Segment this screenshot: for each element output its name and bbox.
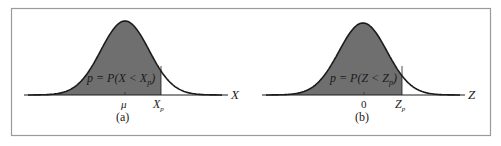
figure-frame <box>12 9 491 136</box>
cutoff-label-a: Xp <box>152 97 164 113</box>
axis-label-a: X <box>230 87 240 102</box>
area-label-b: p = P(Z < Zp) <box>329 71 397 87</box>
panel-a: p = P(X < Xp) X μ Xp (a) <box>24 21 240 124</box>
area-label-a: p = P(X < Xp) <box>86 71 155 87</box>
normal-distribution-figure: p = P(X < Xp) X μ Xp (a) p = P(Z < Zp) Z… <box>0 0 501 146</box>
cutoff-label-b: Zp <box>395 97 406 113</box>
axis-label-b: Z <box>468 87 476 102</box>
zero-label-b: 0 <box>361 98 367 110</box>
caption-b: (b) <box>355 110 369 124</box>
mean-label-a: μ <box>120 98 127 110</box>
caption-a: (a) <box>116 110 129 124</box>
panel-b: p = P(Z < Zp) Z 0 Zp (b) <box>262 23 476 124</box>
